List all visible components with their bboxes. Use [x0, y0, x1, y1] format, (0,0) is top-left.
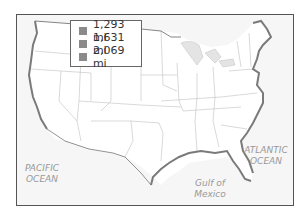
atlantic-ocean-label: ATLANTIC OCEAN [240, 145, 292, 167]
gulf-label-line1: Gulf of [185, 178, 235, 189]
gulf-label-line2: Mexico [185, 189, 235, 200]
atlantic-label-line2: OCEAN [240, 156, 292, 167]
pacific-label-line1: PACIFIC [17, 163, 67, 174]
pacific-label-line2: OCEAN [17, 174, 67, 185]
legend: 1,293 mi 1,631 mi 2,069 mi [70, 20, 142, 67]
legend-swatch [79, 27, 87, 35]
legend-item: 2,069 mi [79, 50, 141, 63]
atlantic-label-line1: ATLANTIC [240, 145, 292, 156]
gulf-of-mexico-label: Gulf of Mexico [185, 178, 235, 200]
legend-swatch [79, 53, 87, 61]
legend-label: 2,069 mi [93, 44, 141, 70]
map-frame: PACIFIC OCEAN ATLANTIC OCEAN Gulf of Mex… [16, 14, 294, 206]
legend-swatch [79, 40, 87, 48]
pacific-ocean-label: PACIFIC OCEAN [17, 163, 67, 185]
us-landmass [29, 21, 271, 185]
